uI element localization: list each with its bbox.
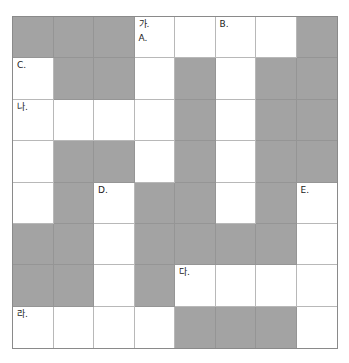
answer-cell[interactable] — [94, 224, 135, 265]
blocked-cell — [54, 183, 95, 224]
answer-cell[interactable] — [216, 58, 257, 99]
blocked-cell — [13, 17, 54, 58]
blocked-cell — [256, 141, 297, 182]
answer-cell[interactable] — [216, 265, 257, 306]
answer-cell[interactable] — [216, 183, 257, 224]
blocked-cell — [54, 58, 95, 99]
answer-cell[interactable] — [54, 100, 95, 141]
answer-cell[interactable]: 라. — [13, 307, 54, 348]
answer-cell[interactable]: B. — [216, 17, 257, 58]
answer-cell[interactable]: D. — [94, 183, 135, 224]
clue-number-label: B. — [220, 19, 229, 29]
blocked-cell — [54, 224, 95, 265]
blocked-cell — [297, 17, 338, 58]
blocked-cell — [94, 17, 135, 58]
blocked-cell — [256, 224, 297, 265]
answer-cell[interactable] — [54, 307, 95, 348]
blocked-cell — [54, 265, 95, 306]
blocked-cell — [256, 58, 297, 99]
blocked-cell — [13, 224, 54, 265]
answer-cell[interactable] — [13, 183, 54, 224]
answer-cell[interactable]: C. — [13, 58, 54, 99]
answer-cell[interactable]: E. — [297, 183, 338, 224]
answer-cell[interactable] — [256, 17, 297, 58]
clue-number-label: 나. — [17, 102, 28, 112]
blocked-cell — [94, 58, 135, 99]
blocked-cell — [216, 307, 257, 348]
clue-number-label: C. — [17, 60, 26, 70]
blocked-cell — [175, 183, 216, 224]
answer-cell[interactable] — [256, 265, 297, 306]
blocked-cell — [175, 307, 216, 348]
clue-number-label: 다. — [179, 267, 190, 277]
blocked-cell — [297, 141, 338, 182]
blocked-cell — [297, 100, 338, 141]
answer-cell[interactable] — [216, 100, 257, 141]
blocked-cell — [54, 141, 95, 182]
blocked-cell — [297, 58, 338, 99]
answer-cell[interactable] — [297, 224, 338, 265]
answer-cell[interactable] — [94, 307, 135, 348]
blocked-cell — [256, 183, 297, 224]
answer-cell[interactable]: 가.A. — [135, 17, 176, 58]
blocked-cell — [13, 265, 54, 306]
answer-cell[interactable] — [297, 265, 338, 306]
clue-number-label: 가. — [139, 19, 150, 29]
blocked-cell — [135, 183, 176, 224]
answer-cell[interactable] — [175, 17, 216, 58]
answer-cell[interactable] — [297, 307, 338, 348]
answer-cell[interactable] — [135, 141, 176, 182]
blocked-cell — [54, 17, 95, 58]
answer-cell[interactable] — [216, 141, 257, 182]
answer-cell[interactable] — [135, 58, 176, 99]
clue-number-label: A. — [139, 33, 148, 43]
blocked-cell — [175, 141, 216, 182]
clue-number-label: D. — [98, 185, 108, 195]
answer-cell[interactable] — [94, 265, 135, 306]
clue-number-label: 라. — [17, 309, 28, 319]
crossword-grid: 가.A.B.C.나.D.E.다.라. — [12, 16, 338, 349]
answer-cell[interactable] — [94, 100, 135, 141]
blocked-cell — [175, 58, 216, 99]
answer-cell[interactable] — [135, 100, 176, 141]
answer-cell[interactable]: 다. — [175, 265, 216, 306]
blocked-cell — [175, 224, 216, 265]
blocked-cell — [135, 224, 176, 265]
blocked-cell — [135, 265, 176, 306]
blocked-cell — [216, 224, 257, 265]
clue-number-label: E. — [301, 185, 310, 195]
answer-cell[interactable]: 나. — [13, 100, 54, 141]
answer-cell[interactable] — [13, 141, 54, 182]
blocked-cell — [175, 100, 216, 141]
blocked-cell — [256, 307, 297, 348]
blocked-cell — [256, 100, 297, 141]
answer-cell[interactable] — [135, 307, 176, 348]
blocked-cell — [94, 141, 135, 182]
